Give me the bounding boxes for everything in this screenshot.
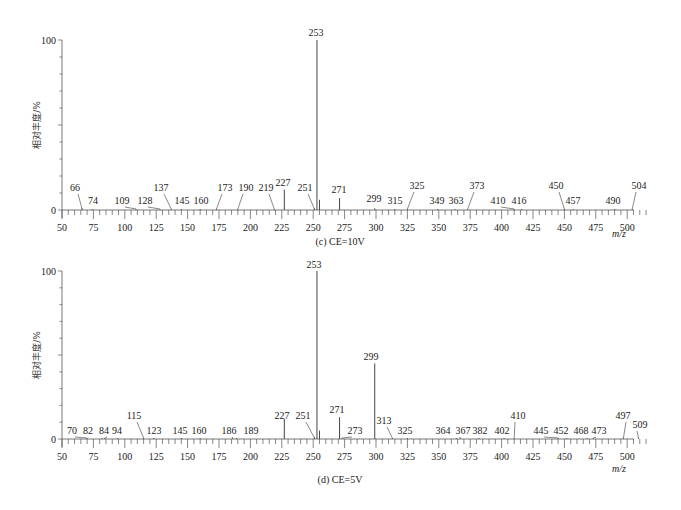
peak-label-490: 490	[606, 195, 621, 206]
mass-spectra-figure: 0100相对丰度/%507510012515017520022525027530…	[0, 0, 681, 510]
peak-label-445: 445	[534, 425, 549, 436]
x-tick-label: 200	[243, 451, 258, 462]
y-tick-label: 100	[41, 35, 56, 46]
leader-line	[148, 207, 160, 209]
leader-line	[216, 194, 222, 209]
peak-label-504: 504	[632, 180, 647, 191]
x-tick-label: 100	[117, 222, 132, 233]
x-tick-label: 250	[306, 451, 321, 462]
x-tick-label: 300	[369, 222, 384, 233]
leader-line	[407, 192, 414, 209]
leader-line	[501, 207, 514, 209]
leader-line	[342, 437, 352, 438]
peak-label-382: 382	[473, 425, 488, 436]
leader-line	[164, 194, 171, 209]
x-tick-label: 350	[431, 222, 446, 233]
x-tick-label: 50	[57, 451, 67, 462]
peak-label-160: 160	[192, 425, 207, 436]
peak-label-219: 219	[259, 182, 274, 193]
peak-label-74: 74	[88, 195, 98, 206]
peak-label-123: 123	[147, 425, 162, 436]
x-tick-label: 375	[463, 222, 478, 233]
leader-line	[632, 192, 636, 209]
peak-label-363: 363	[449, 195, 464, 206]
x-tick-label: 150	[180, 222, 195, 233]
peak-label-227: 227	[275, 410, 290, 421]
x-tick-label: 175	[212, 222, 227, 233]
leader-line	[306, 422, 314, 438]
peak-label-299: 299	[367, 193, 382, 204]
x-tick-label: 475	[588, 451, 603, 462]
peak-label-364: 364	[436, 425, 451, 436]
x-tick-label: 275	[337, 222, 352, 233]
peak-label-66: 66	[70, 182, 80, 193]
peak-label-509: 509	[633, 419, 648, 430]
peak-label-186: 186	[222, 425, 237, 436]
figure: 0100相对丰度/%507510012515017520022525027530…	[0, 0, 681, 510]
x-tick-label: 325	[400, 222, 415, 233]
x-tick-label: 225	[274, 451, 289, 462]
peak-label-315: 315	[388, 195, 403, 206]
peak-label-410: 410	[511, 410, 526, 421]
peak-label-160: 160	[194, 195, 209, 206]
x-tick-label: 300	[369, 451, 384, 462]
x-tick-label: 125	[149, 222, 164, 233]
peak-label-457: 457	[566, 195, 581, 206]
peak-label-84: 84	[99, 425, 109, 436]
leader-line	[637, 431, 639, 438]
peak-label-253: 253	[309, 27, 324, 38]
peak-label-299: 299	[364, 351, 379, 362]
x-tick-label: 400	[494, 222, 509, 233]
x-tick-label: 325	[400, 451, 415, 462]
peak-label-452: 452	[554, 425, 569, 436]
y-axis-label: 相对丰度/%	[31, 101, 42, 149]
peak-label-82: 82	[83, 425, 93, 436]
x-tick-label: 175	[212, 451, 227, 462]
peak-label-145: 145	[173, 425, 188, 436]
peak-label-253: 253	[307, 259, 322, 270]
spectrum-panel-c: 0100相对丰度/%507510012515017520022525027530…	[31, 27, 647, 248]
peak-label-190: 190	[239, 182, 254, 193]
peak-label-251: 251	[296, 410, 311, 421]
peak-label-349: 349	[430, 195, 445, 206]
x-axis-label: m/z	[612, 228, 626, 239]
leader-line	[232, 437, 233, 438]
peak-label-325: 325	[398, 425, 413, 436]
peak-label-94: 94	[112, 425, 122, 436]
peak-label-273: 273	[348, 425, 363, 436]
peak-label-416: 416	[512, 195, 527, 206]
leader-line	[308, 194, 314, 209]
x-tick-label: 150	[180, 451, 195, 462]
x-tick-label: 225	[274, 222, 289, 233]
x-tick-label: 75	[88, 222, 98, 233]
x-tick-label: 250	[306, 222, 321, 233]
peak-label-271: 271	[330, 404, 345, 415]
peak-label-109: 109	[115, 195, 130, 206]
peak-label-313: 313	[377, 415, 392, 426]
leader-line	[387, 427, 392, 438]
peak-label-271: 271	[332, 184, 347, 195]
x-tick-label: 200	[243, 222, 258, 233]
leader-line	[623, 422, 626, 438]
leader-line	[514, 422, 515, 438]
x-axis-label: m/z	[612, 463, 626, 474]
x-tick-label: 125	[149, 451, 164, 462]
peak-label-173: 173	[218, 182, 233, 193]
y-axis-label: 相对丰度/%	[31, 331, 42, 379]
leader-line	[544, 437, 558, 438]
panel-caption: (d) CE=5V	[318, 474, 364, 486]
x-tick-label: 450	[557, 451, 572, 462]
peak-label-137: 137	[154, 182, 169, 193]
peak-label-70: 70	[67, 425, 77, 436]
peak-label-373: 373	[470, 180, 485, 191]
peak-label-367: 367	[456, 425, 471, 436]
peak-label-450: 450	[549, 180, 564, 191]
leader-line	[137, 422, 144, 438]
x-tick-label: 50	[57, 222, 67, 233]
peak-label-325: 325	[410, 180, 425, 191]
peak-label-497: 497	[616, 410, 631, 421]
y-tick-label: 0	[51, 205, 56, 216]
peak-label-468: 468	[574, 425, 589, 436]
x-tick-label: 375	[463, 451, 478, 462]
x-tick-label: 450	[557, 222, 572, 233]
